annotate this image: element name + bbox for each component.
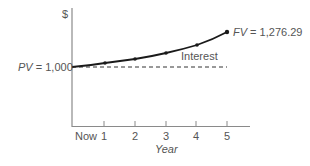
tick-label-3: 3 <box>163 131 169 142</box>
chart-canvas <box>0 0 310 166</box>
tick-label-4: 4 <box>193 131 199 142</box>
pv-prefix: PV <box>18 61 33 73</box>
x-axis-label: Year <box>155 144 178 155</box>
fv-value: = 1,276.29 <box>247 26 302 38</box>
fv-prefix: FV <box>233 26 247 38</box>
pv-annotation: PV = 1,000 <box>18 62 73 73</box>
tick-label-5: 5 <box>224 131 230 142</box>
tick-label-1: 1 <box>101 131 107 142</box>
fv-annotation: FV = 1,276.29 <box>233 27 302 38</box>
tick-label-now: Now <box>75 131 97 142</box>
tick-label-2: 2 <box>132 131 138 142</box>
pv-value: = 1,000 <box>33 61 73 73</box>
interest-annotation: Interest <box>181 51 218 62</box>
x-ticks <box>104 121 227 126</box>
y-axis-label: $ <box>62 9 68 20</box>
